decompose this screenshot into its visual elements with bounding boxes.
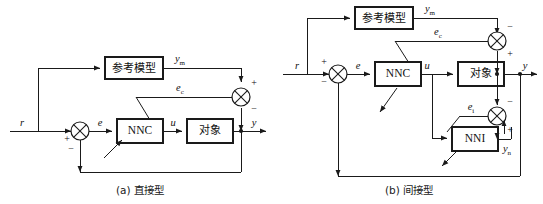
caption-panel-a: (a) 直接型 [116, 184, 164, 196]
sign-plus-right-a: + [251, 77, 257, 88]
block-plant-a: 对象 [187, 119, 233, 143]
sign-plus-top-b: + [507, 48, 513, 59]
block-nni-b: NNI [452, 127, 498, 151]
panel-a-direct-type: r 参考模型 ym + − e [0, 0, 275, 204]
panel-b-indirect-type: r 参考模型 ym + − e [275, 0, 543, 204]
signal-label-y-a: y [251, 117, 257, 128]
wire-control-error-to-nnc-b [395, 41, 488, 63]
block-label-reference-model: 参考模型 [112, 61, 156, 75]
signal-label-ym: ym [174, 53, 186, 67]
nni-learning-arrow-b [442, 150, 458, 166]
signal-label-y-b: y [522, 60, 528, 71]
block-label-nnc: NNC [128, 124, 153, 136]
sign-minus-left-a: − [68, 143, 74, 154]
signal-label-r: r [20, 117, 25, 128]
signal-label-ei-b: ei [468, 101, 475, 115]
sum-junction-left-a: + − [64, 122, 89, 154]
nnc-learning-arrow-a [104, 140, 122, 158]
block-label-nnc-b: NNC [386, 67, 411, 79]
wire-r-branch-to-reference-model [38, 68, 100, 131]
signal-label-e-b: e [356, 60, 361, 71]
signal-label-e-a: e [98, 117, 103, 128]
signal-label-ec-a: ec [176, 82, 184, 96]
block-label-plant-b: 对象 [470, 66, 492, 80]
sign-minus-top-b: − [507, 21, 513, 32]
block-reference-model-a: 参考模型 [105, 57, 163, 79]
sign-minus-left-b: − [321, 76, 327, 87]
signal-label-u-a: u [170, 117, 175, 128]
sum-junction-top-b: − + [488, 21, 513, 59]
block-label-nni: NNI [465, 132, 486, 144]
sum-junction-right-a: + − [232, 77, 257, 114]
wire-model-output-to-sum-b [413, 18, 497, 34]
wire-control-error-to-nnc-a [136, 97, 232, 120]
signal-label-u-b: u [424, 60, 429, 71]
wire-nnc-to-plant-b [421, 74, 453, 138]
sign-plus-left-b: + [321, 56, 327, 67]
wire-r-branch-to-reference-model-b [307, 18, 350, 74]
signal-label-r-b: r [295, 60, 300, 71]
nnc-learning-arrow-b [380, 88, 397, 112]
sign-minus-right-a: − [251, 103, 257, 114]
wire-plant-output-a [233, 129, 266, 133]
block-reference-model-b: 参考模型 [355, 7, 413, 29]
block-nnc-b: NNC [375, 62, 421, 86]
sign-plus-low-b: + [507, 124, 513, 135]
signal-label-ec-b: ec [434, 26, 442, 40]
sign-minus-low-b: − [507, 96, 513, 107]
signal-label-ym-b: ym [424, 3, 436, 17]
block-label-reference-model-b: 参考模型 [362, 11, 406, 25]
figure-neural-control-block-diagrams: r 参考模型 ym + − e [0, 0, 543, 204]
wire-model-output-to-sum [163, 68, 241, 82]
wire-feedback-b [338, 74, 520, 176]
caption-panel-b: (b) 间接型 [385, 184, 433, 196]
block-label-plant: 对象 [199, 123, 221, 137]
sum-junction-left-b: + − [321, 56, 347, 87]
block-nnc-a: NNC [117, 119, 163, 143]
signal-label-yn-b: yn [502, 143, 512, 157]
